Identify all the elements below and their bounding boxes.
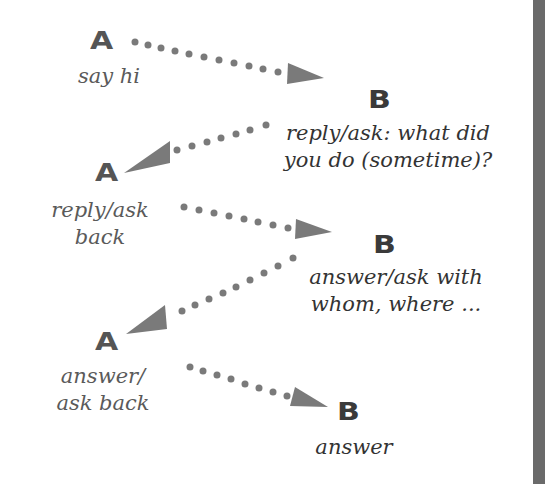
speaker-a-label: A (90, 29, 113, 53)
speaker-b-label: B (368, 88, 391, 112)
arrow-a3-to-b3 (187, 364, 329, 408)
speaker-a-label: A (95, 161, 118, 185)
node-a2-text: reply/ask back (30, 197, 170, 251)
arrowhead-icon (126, 305, 167, 334)
arrowhead-icon (124, 141, 170, 173)
arrowhead-icon (287, 63, 324, 84)
node-a3-text: answer/ ask back (38, 363, 168, 417)
speaker-a-label: A (95, 330, 118, 354)
speaker-b-label: B (373, 233, 396, 257)
arrowhead-icon (290, 387, 328, 407)
speaker-b-label: B (337, 400, 360, 424)
node-b3-text: answer (294, 434, 414, 461)
node-a1-text: say hi (78, 63, 140, 90)
arrowhead-icon (295, 219, 332, 239)
arrow-a2-to-b2 (181, 204, 333, 240)
node-b2-text: answer/ask with whom, where ... (256, 264, 536, 318)
page-edge-bar (533, 0, 545, 484)
arrow-a1-to-b1 (132, 39, 325, 85)
conversation-flow-diagram: A say hi B reply/ask: what did you do (s… (0, 0, 545, 484)
node-b1-text: reply/ask: what did you do (sometime)? (238, 120, 538, 174)
